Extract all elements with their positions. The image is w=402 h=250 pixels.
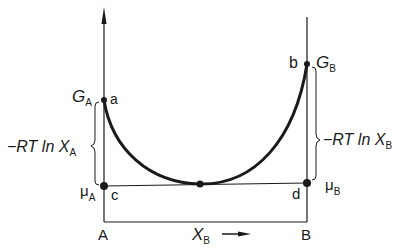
label-mu-a: μA [80, 182, 96, 203]
left-brace [91, 102, 99, 185]
point-d [303, 179, 311, 187]
label-component-a: A [98, 226, 108, 243]
point-a [101, 97, 107, 103]
label-g-b: GB [316, 53, 336, 74]
label-g-a: GA [72, 87, 92, 108]
label-mu-b: μB [325, 176, 341, 197]
right-arrow-icon [238, 232, 251, 237]
label-b: b [289, 54, 298, 71]
label-rt-ln-xa: −RT ln XA [7, 138, 76, 158]
label-xb: XB [191, 225, 210, 246]
point-c [100, 182, 108, 190]
label-a: a [110, 91, 118, 107]
label-d: d [292, 185, 300, 202]
right-brace [312, 67, 320, 180]
tangent-point [197, 181, 204, 188]
point-b [304, 61, 310, 67]
free-energy-curve [104, 64, 307, 184]
free-energy-diagram: GA a b GB −RT ln XA −RT ln XB μA c μB d … [0, 0, 402, 250]
label-rt-ln-xb: −RT ln XB [323, 131, 392, 151]
label-component-b: B [301, 226, 311, 243]
up-arrow-icon [102, 7, 107, 24]
label-c: c [111, 186, 119, 203]
